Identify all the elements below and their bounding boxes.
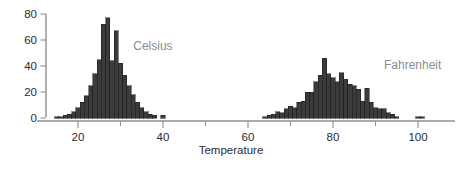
histogram-bar bbox=[293, 108, 297, 118]
histogram-bar bbox=[84, 96, 88, 118]
histogram-bar bbox=[310, 92, 314, 118]
histogram-bar bbox=[63, 115, 67, 118]
histogram-bar bbox=[361, 101, 365, 118]
series-label-celsius: Celsius bbox=[133, 39, 172, 53]
histogram-bar bbox=[148, 114, 152, 118]
histogram-bar bbox=[152, 115, 156, 118]
series-label-fahrenheit: Fahrenheit bbox=[384, 58, 442, 72]
y-tick-label: 20 bbox=[24, 86, 37, 98]
histogram-bar bbox=[335, 82, 339, 118]
histogram-bar bbox=[284, 109, 288, 118]
y-tick-label: 0 bbox=[31, 112, 37, 124]
y-tick-label: 60 bbox=[24, 34, 37, 46]
histogram-bar bbox=[72, 112, 76, 119]
histogram-bar bbox=[123, 75, 127, 118]
histogram-bar bbox=[76, 108, 80, 118]
x-axis: 20406080100 bbox=[37, 121, 455, 143]
x-tick-label: 20 bbox=[72, 131, 85, 143]
histogram-bar bbox=[80, 102, 84, 118]
y-tick-label: 40 bbox=[24, 60, 37, 72]
histogram-bar bbox=[416, 117, 420, 118]
histogram-bar bbox=[93, 74, 97, 118]
histogram-figure: 020406080 20406080100 Temperature Celsiu… bbox=[0, 0, 462, 172]
histogram-bar bbox=[339, 73, 343, 119]
histogram-bar bbox=[344, 79, 348, 118]
x-axis-title: Temperature bbox=[199, 144, 264, 156]
histogram-bar bbox=[280, 113, 284, 118]
histogram-bar bbox=[101, 24, 105, 118]
histogram-bar bbox=[67, 114, 71, 118]
x-tick-label: 80 bbox=[327, 131, 340, 143]
x-tick-label: 60 bbox=[242, 131, 255, 143]
histogram-bar bbox=[331, 78, 335, 118]
histogram-bar bbox=[301, 101, 305, 118]
histogram-bar bbox=[327, 74, 331, 118]
bars-layer bbox=[55, 18, 425, 118]
temperature-histogram-chart: 020406080 20406080100 Temperature Celsiu… bbox=[0, 0, 462, 172]
histogram-bar bbox=[356, 89, 360, 118]
histogram-bar bbox=[390, 114, 394, 118]
histogram-bar bbox=[288, 106, 292, 118]
histogram-bar bbox=[131, 95, 135, 118]
histogram-bar bbox=[314, 82, 318, 118]
histogram-bar bbox=[420, 117, 424, 118]
histogram-bar bbox=[89, 86, 93, 119]
histogram-bar bbox=[127, 86, 131, 119]
histogram-bar bbox=[118, 63, 122, 118]
histogram-bar bbox=[373, 108, 377, 118]
histogram-bar bbox=[267, 115, 271, 118]
histogram-bar bbox=[144, 112, 148, 119]
histogram-bar bbox=[55, 117, 59, 118]
histogram-bar bbox=[59, 117, 63, 118]
x-tick-label: 100 bbox=[408, 131, 427, 143]
histogram-bar bbox=[318, 75, 322, 118]
histogram-bar bbox=[114, 31, 118, 118]
histogram-bar bbox=[386, 113, 390, 118]
histogram-bar bbox=[305, 92, 309, 118]
histogram-bar bbox=[161, 115, 165, 118]
histogram-bar bbox=[140, 108, 144, 118]
histogram-bar bbox=[382, 109, 386, 118]
histogram-bar bbox=[348, 84, 352, 118]
series-annotations: CelsiusFahrenheit bbox=[133, 39, 442, 71]
histogram-bar bbox=[271, 114, 275, 118]
histogram-bar bbox=[276, 112, 280, 119]
histogram-bar bbox=[378, 109, 382, 118]
histogram-bar bbox=[110, 61, 114, 118]
histogram-bar bbox=[135, 102, 139, 118]
histogram-bar bbox=[97, 60, 101, 119]
y-tick-label: 80 bbox=[24, 8, 37, 20]
histogram-bar bbox=[369, 102, 373, 118]
histogram-bar bbox=[395, 117, 399, 118]
x-tick-label: 40 bbox=[157, 131, 170, 143]
histogram-bar bbox=[365, 88, 369, 118]
y-axis: 020406080 bbox=[24, 8, 46, 124]
histogram-bar bbox=[106, 18, 110, 118]
histogram-bar bbox=[322, 58, 326, 118]
histogram-bar bbox=[352, 86, 356, 119]
histogram-bar bbox=[297, 102, 301, 118]
histogram-series bbox=[55, 18, 166, 118]
histogram-bar bbox=[263, 117, 267, 118]
